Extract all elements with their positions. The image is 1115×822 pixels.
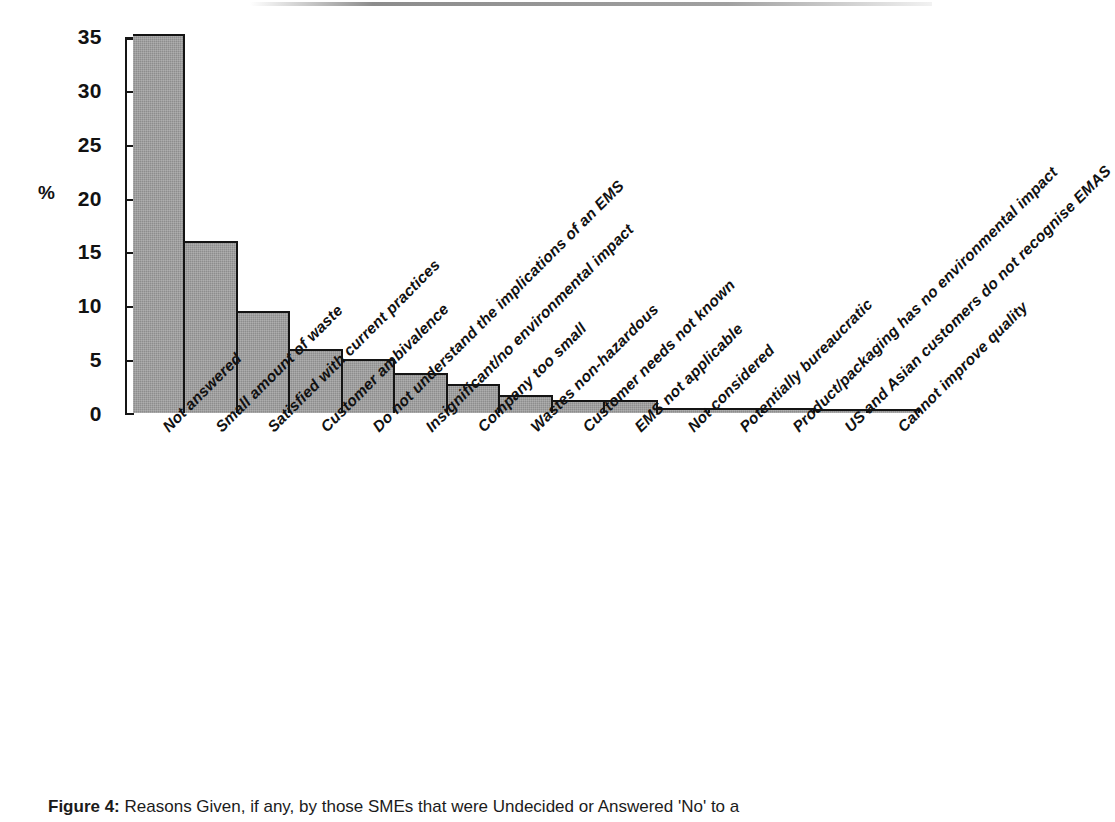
y-axis-tick-label: 15 [62, 240, 102, 264]
y-axis-tick-label: 30 [62, 79, 102, 103]
y-axis-tick-label: 35 [62, 25, 102, 49]
figure-caption-text: Reasons Given, if any, by those SMEs tha… [125, 797, 740, 816]
y-axis-tick-label: 25 [62, 133, 102, 157]
y-axis-title: % [38, 182, 55, 204]
y-axis-tick-label: 0 [62, 402, 102, 426]
figure-caption: Figure 4: Reasons Given, if any, by thos… [48, 796, 928, 818]
scan-edge-artifact [250, 2, 932, 6]
y-axis-tick-label: 5 [62, 348, 102, 372]
y-axis-tick-label: 10 [62, 294, 102, 318]
figure-caption-label: Figure 4: [48, 797, 120, 816]
y-axis-tick-label: 20 [62, 187, 102, 211]
bar [133, 34, 185, 413]
